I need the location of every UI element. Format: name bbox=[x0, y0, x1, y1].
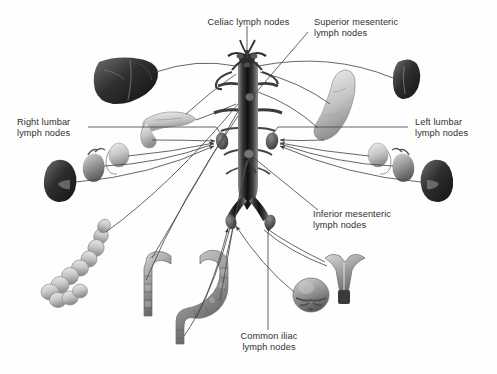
small-intestine-organ bbox=[41, 217, 113, 308]
diagram-canvas: Celiac lymph nodes Superior mesenteric l… bbox=[0, 0, 497, 374]
label-celiac-lymph-nodes: Celiac lymph nodes bbox=[186, 17, 311, 28]
anatomy-illustration bbox=[0, 0, 497, 374]
label-right-lumbar-lymph-nodes: Right lumbar lymph nodes bbox=[17, 117, 107, 139]
liver-organ bbox=[94, 58, 158, 105]
superior-mesenteric-node bbox=[245, 93, 254, 101]
kidney-left-organ bbox=[421, 160, 454, 202]
label-left-lumbar-lymph-nodes: Left lumbar lymph nodes bbox=[415, 117, 497, 139]
pancreas-organ bbox=[141, 112, 196, 148]
uterus-organ bbox=[325, 254, 365, 304]
spleen-organ bbox=[393, 59, 420, 99]
label-common-iliac-lymph-nodes: Common iliac lymph nodes bbox=[213, 331, 325, 353]
abdominal-aorta bbox=[214, 40, 282, 221]
bladder-organ bbox=[293, 278, 329, 312]
kidney-right-organ bbox=[44, 160, 77, 202]
stomach-organ bbox=[314, 70, 355, 140]
adrenal-gland-left-organ bbox=[392, 148, 414, 182]
gonad-right-organ bbox=[106, 143, 129, 174]
left-lumbar-node bbox=[265, 132, 280, 151]
gonad-left-organ bbox=[368, 143, 391, 174]
ascending-colon-organ bbox=[144, 252, 171, 317]
adrenal-gland-right-organ bbox=[83, 148, 105, 182]
inferior-mesenteric-node bbox=[244, 150, 254, 159]
label-inferior-mesenteric-lymph-nodes: Inferior mesenteric lymph nodes bbox=[313, 209, 438, 231]
common-iliac-node-right bbox=[224, 213, 239, 230]
label-superior-mesenteric-lymph-nodes: Superior mesenteric lymph nodes bbox=[314, 17, 434, 39]
